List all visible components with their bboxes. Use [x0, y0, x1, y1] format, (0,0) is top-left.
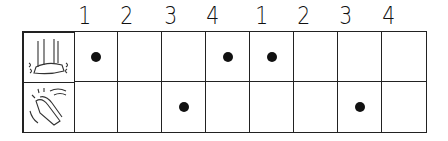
grid-cell[interactable] [206, 32, 250, 82]
grid-cell[interactable] [118, 82, 162, 132]
beat-label: 3 [164, 2, 177, 30]
stomp-foot-icon [23, 32, 75, 83]
grid-cell[interactable] [294, 32, 338, 82]
grid-cell[interactable] [74, 32, 118, 82]
beat-label: 1 [255, 2, 268, 30]
grid-cell[interactable] [294, 82, 338, 132]
grid-cell[interactable] [382, 82, 426, 132]
beat-label: 3 [339, 2, 352, 30]
beat-label: 2 [120, 2, 133, 30]
grid-cell[interactable] [162, 82, 206, 132]
hit-dot [91, 52, 101, 62]
beat-label: 1 [78, 2, 91, 30]
clap-hands-icon [23, 82, 75, 133]
grid-cell[interactable] [162, 32, 206, 82]
grid-cell[interactable] [206, 82, 250, 132]
hit-dot [179, 102, 189, 112]
hit-dot [267, 52, 277, 62]
grid-cell[interactable] [250, 32, 294, 82]
grid-cell[interactable] [118, 32, 162, 82]
grid-cell[interactable] [338, 32, 382, 82]
grid-cell[interactable] [74, 82, 118, 132]
beat-label: 4 [382, 2, 395, 30]
beat-label: 4 [206, 2, 219, 30]
hit-dot [355, 102, 365, 112]
grid-cell[interactable] [338, 82, 382, 132]
beat-label: 2 [297, 2, 310, 30]
rhythm-grid [22, 31, 427, 133]
grid-cell[interactable] [382, 32, 426, 82]
grid-cell[interactable] [250, 82, 294, 132]
hit-dot [223, 52, 233, 62]
